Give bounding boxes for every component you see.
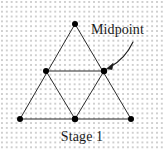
- midpoint-callout-arrow: [107, 42, 134, 70]
- vertex-bottom-left: [17, 116, 23, 122]
- vertex-bottom-midpoint: [72, 116, 78, 122]
- vertex-left-midpoint: [43, 68, 49, 74]
- inner-triangle-group: [46, 71, 104, 119]
- stage-caption: Stage 1: [0, 129, 164, 145]
- midpoint-annotation-label: Midpoint: [91, 22, 144, 38]
- sierpinski-stage-1-figure: Midpoint Stage 1: [0, 0, 164, 149]
- arrow-head: [107, 63, 114, 69]
- vertex-apex: [72, 21, 78, 27]
- vertex-bottom-right: [128, 116, 134, 122]
- inner-inverted-triangle: [46, 71, 104, 119]
